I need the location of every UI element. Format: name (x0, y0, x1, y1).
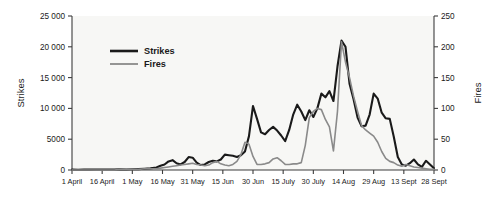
y2-tick-label: 0 (441, 166, 446, 175)
y-tick-label: 25 000 (40, 12, 65, 21)
y-axis-title: Strikes (15, 78, 26, 107)
x-tick-label: 28 Sept (421, 177, 446, 186)
y-tick-label: 0 (60, 166, 65, 175)
y-tick-label: 20 000 (40, 43, 65, 52)
legend-label-fires: Fires (144, 59, 166, 69)
x-tick-label: 14 Aug (332, 177, 355, 186)
x-tick-label: 30 Jun (242, 177, 264, 186)
y-tick-label: 5000 (47, 135, 66, 144)
x-tick-label: 15 July (271, 177, 295, 186)
y2-tick-label: 150 (441, 74, 455, 83)
x-tick-label: 1 April (62, 177, 83, 186)
y2-tick-label: 200 (441, 43, 455, 52)
lightning-strikes-fires-chart: 0500010 00015 00020 00025 000 0501001502… (0, 0, 500, 197)
y-tick-label: 15 000 (40, 74, 65, 83)
x-tick-label: 16 April (90, 177, 115, 186)
y2-axis-title: Fires (472, 82, 483, 103)
x-tick-label: 13 Sept (391, 177, 416, 186)
y-tick-label: 10 000 (40, 104, 65, 113)
chart-canvas: 0500010 00015 00020 00025 000 0501001502… (0, 0, 500, 197)
y2-tick-label: 50 (441, 135, 451, 144)
legend-label-strikes: Strikes (144, 46, 175, 56)
x-tick-label: 29 Aug (362, 177, 385, 186)
y2-tick-label: 250 (441, 12, 455, 21)
x-tick-label: 1 May (122, 177, 142, 186)
x-tick-label: 16 May (150, 177, 175, 186)
x-tick-label: 15 Jun (212, 177, 234, 186)
x-tick-label: 30 July (302, 177, 326, 186)
x-tick-label: 31 May (181, 177, 206, 186)
y2-tick-label: 100 (441, 104, 455, 113)
